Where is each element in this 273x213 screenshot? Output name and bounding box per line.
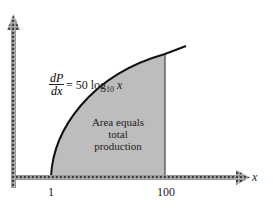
- y-axis-arrow: [7, 14, 20, 30]
- tick-1: 1: [48, 185, 54, 200]
- x-axis: [13, 175, 241, 180]
- x-axis-label: x: [252, 170, 257, 185]
- tick-100: 100: [157, 185, 175, 200]
- equation-rhs: = 50 log10 x: [66, 78, 122, 94]
- equation-fraction: dP dx: [49, 72, 64, 97]
- area-label: Area equals total production: [86, 116, 150, 152]
- x-axis-arrow: [236, 170, 250, 185]
- y-axis: [11, 28, 16, 188]
- diagram-graphics: [0, 0, 273, 213]
- diagram: dP dx = 50 log10 x Area equals total pro…: [0, 0, 273, 213]
